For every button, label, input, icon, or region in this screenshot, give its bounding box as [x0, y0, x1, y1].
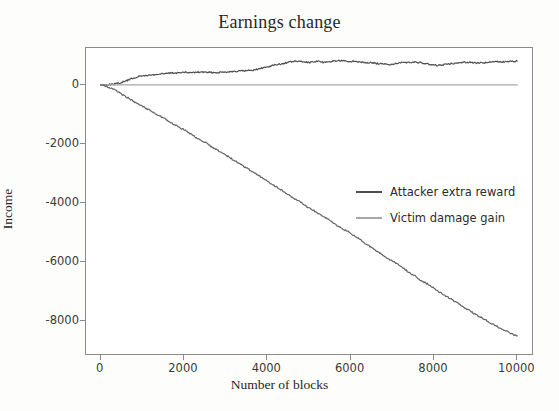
x-tick-mark [183, 355, 184, 360]
x-axis-label: Number of blocks [0, 377, 559, 393]
x-tick-mark [350, 355, 351, 360]
x-tick-label: 10000 [498, 361, 535, 375]
y-axis-ticks: 0-2000-4000-6000-8000 [0, 0, 79, 411]
y-tick-mark [80, 261, 85, 262]
y-tick-mark [80, 320, 85, 321]
y-tick-label: -8000 [46, 313, 79, 327]
x-tick-label: 2000 [168, 361, 197, 375]
legend-line-icon [356, 217, 382, 219]
x-tick-label: 8000 [418, 361, 447, 375]
y-tick-mark [80, 143, 85, 144]
x-tick-mark [516, 355, 517, 360]
legend-item-label: Attacker extra reward [390, 185, 515, 199]
x-tick-mark [100, 355, 101, 360]
x-tick-mark [433, 355, 434, 360]
x-tick-label: 6000 [335, 361, 364, 375]
chart-legend: Attacker extra rewardVictim damage gain [356, 182, 532, 234]
y-tick-label: -6000 [46, 254, 79, 268]
series-line [101, 60, 518, 85]
x-tick-mark [266, 355, 267, 360]
y-tick-label: -2000 [46, 136, 79, 150]
legend-item[interactable]: Victim damage gain [356, 208, 532, 228]
y-tick-mark [80, 202, 85, 203]
x-tick-label: 0 [96, 361, 103, 375]
legend-item-label: Victim damage gain [390, 211, 505, 225]
y-tick-mark [80, 84, 85, 85]
legend-item[interactable]: Attacker extra reward [356, 182, 532, 202]
y-tick-label: 0 [72, 77, 79, 91]
chart-title: Earnings change [0, 12, 559, 33]
legend-line-icon [356, 191, 382, 193]
y-tick-label: -4000 [46, 195, 79, 209]
chart-figure: Earnings change Income Number of blocks … [0, 0, 559, 411]
x-tick-label: 4000 [252, 361, 281, 375]
